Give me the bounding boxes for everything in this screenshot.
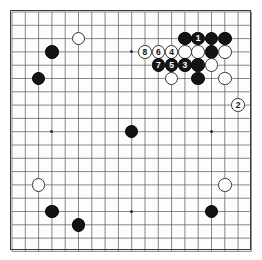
stone-move-number: 1	[192, 33, 204, 45]
stone-move-number: 5	[166, 59, 178, 71]
stone-black[interactable]	[205, 45, 219, 59]
stone-move-number: 4	[166, 46, 178, 58]
stone-move-2[interactable]: 2	[231, 98, 245, 112]
stone-black[interactable]	[191, 72, 205, 86]
stone-black[interactable]	[191, 58, 205, 72]
stone-white[interactable]	[191, 45, 205, 59]
stone-move-5[interactable]: 5	[165, 58, 179, 72]
stone-move-number: 8	[139, 46, 151, 58]
stone-black[interactable]	[72, 218, 86, 232]
stone-move-3[interactable]: 3	[178, 58, 192, 72]
go-board-diagram: 18647532	[0, 0, 262, 260]
stone-white[interactable]	[178, 45, 192, 59]
stone-black[interactable]	[218, 32, 232, 46]
stone-move-4[interactable]: 4	[165, 45, 179, 59]
stone-move-1[interactable]: 1	[191, 32, 205, 46]
stone-black[interactable]	[45, 45, 59, 59]
stone-move-7[interactable]: 7	[152, 58, 166, 72]
stone-move-number: 2	[232, 99, 244, 111]
stone-white[interactable]	[218, 72, 232, 86]
stone-black[interactable]	[178, 32, 192, 46]
stone-black[interactable]	[45, 205, 59, 219]
stone-white[interactable]	[218, 178, 232, 192]
stone-white[interactable]	[32, 178, 46, 192]
stone-move-6[interactable]: 6	[152, 45, 166, 59]
stone-move-number: 6	[153, 46, 165, 58]
stone-move-number: 3	[179, 59, 191, 71]
stone-move-number: 7	[153, 59, 165, 71]
stone-white[interactable]	[205, 58, 219, 72]
stone-move-8[interactable]: 8	[138, 45, 152, 59]
stone-white[interactable]	[218, 45, 232, 59]
